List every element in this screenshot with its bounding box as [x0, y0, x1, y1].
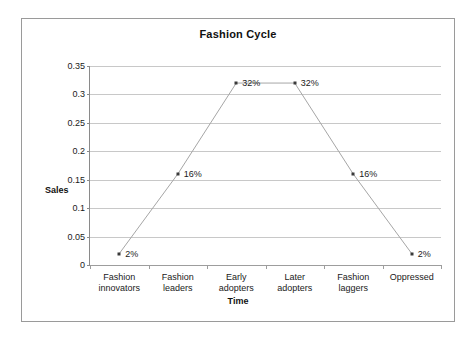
data-point-marker — [293, 82, 296, 85]
x-axis-category-label: Lateradopters — [277, 272, 312, 294]
data-point-marker — [235, 82, 238, 85]
x-axis-category-label: Fashionleaders — [162, 272, 194, 294]
x-axis-tick-mark — [266, 265, 267, 269]
x-axis-tick-mark — [207, 265, 208, 269]
data-point-label: 16% — [184, 169, 202, 179]
series-line — [90, 66, 441, 265]
x-axis-tick-mark — [149, 265, 150, 269]
data-point-marker — [410, 252, 413, 255]
chart-title: Fashion Cycle — [22, 28, 454, 40]
x-axis-title: Time — [22, 296, 454, 306]
y-axis-tick-label: 0.35 — [67, 61, 85, 71]
x-axis-tick-mark — [441, 265, 442, 269]
data-point-marker — [118, 252, 121, 255]
y-axis-tick-label: 0.05 — [67, 232, 85, 242]
y-axis-tick-label: 0.3 — [72, 89, 85, 99]
x-axis-category-label: Fashioninnovators — [98, 272, 140, 294]
x-axis-tick-mark — [324, 265, 325, 269]
data-point-marker — [176, 173, 179, 176]
data-point-label: 2% — [125, 249, 138, 259]
y-axis-tick-label: 0.1 — [72, 203, 85, 213]
data-point-label: 32% — [301, 78, 319, 88]
data-point-label: 32% — [242, 78, 260, 88]
chart-frame: Fashion Cycle Sales 00.050.10.150.20.250… — [21, 18, 455, 322]
data-point-label: 16% — [359, 169, 377, 179]
x-axis-tick-mark — [383, 265, 384, 269]
y-axis-tick-label: 0.15 — [67, 175, 85, 185]
x-axis-category-label: Fashionlaggers — [337, 272, 369, 294]
x-axis-tick-mark — [90, 265, 91, 269]
y-axis-title: Sales — [45, 185, 69, 195]
x-axis-category-label: Earlyadopters — [219, 272, 254, 294]
y-axis-tick-label: 0.2 — [72, 146, 85, 156]
y-axis-tick-label: 0.25 — [67, 118, 85, 128]
y-axis-tick-label: 0 — [80, 260, 85, 270]
plot-area: 00.050.10.150.20.250.30.35 Fashioninnova… — [89, 66, 441, 265]
data-point-marker — [352, 173, 355, 176]
x-axis-category-label: Oppressed — [390, 272, 434, 283]
data-point-label: 2% — [418, 249, 431, 259]
